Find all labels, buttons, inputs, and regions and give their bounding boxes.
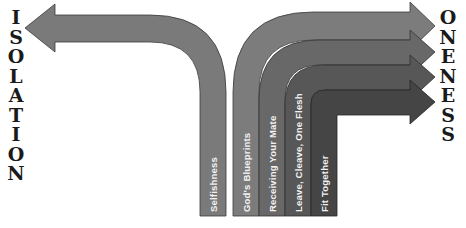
letter: E xyxy=(441,86,455,106)
arrow-leave-cleave-one-flesh: Leave, Cleave, One Flesh xyxy=(285,55,435,216)
letter: I xyxy=(12,125,21,145)
letter: O xyxy=(8,47,25,67)
letter: N xyxy=(7,164,24,184)
oneness-word: O N E N E S S xyxy=(436,8,460,145)
letter: O xyxy=(440,8,457,28)
letter: E xyxy=(441,47,455,67)
label-gods-blueprints: God's Blueprints xyxy=(241,133,252,212)
label-leave-cleave-one-flesh: Leave, Cleave, One Flesh xyxy=(293,93,304,212)
arrow-fit-together: Fit Together xyxy=(311,80,435,216)
label-receiving-your-mate: Receiving Your Mate xyxy=(267,116,278,212)
letter: A xyxy=(9,86,24,106)
label-fit-together: Fit Together xyxy=(319,155,330,212)
arrow-selfishness: Selfishness xyxy=(25,4,226,216)
isolation-word: I S O L A T I O N xyxy=(4,8,28,184)
letter: S xyxy=(441,125,455,145)
letter: I xyxy=(12,8,21,28)
label-selfishness: Selfishness xyxy=(208,157,219,212)
oneness-isolation-diagram: Selfishness God's Blueprints Receiving Y… xyxy=(0,0,466,228)
